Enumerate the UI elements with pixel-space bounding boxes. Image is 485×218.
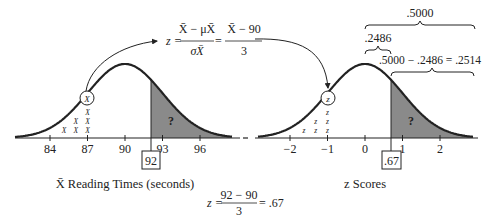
tick-label: 87 (82, 142, 94, 156)
left-marked-value: 92 (145, 154, 157, 168)
right-shaded-tail (391, 80, 473, 138)
diagram-canvas: XXXXXX 8487909396 92 ? X X̄ Reading Time… (0, 0, 485, 218)
hatch-symbol: X (84, 108, 90, 117)
right-hatch-region: zzzzzz (302, 108, 329, 135)
top-formula-frac2-num: X̄ − 90 (227, 22, 260, 36)
left-normal-curve (15, 64, 232, 137)
left-shaded-tail (151, 80, 232, 138)
top-formula-eq: = (215, 34, 222, 48)
top-formula-frac1-num: X̄ − μX̄ (179, 22, 216, 36)
right-shaded-label: ? (408, 114, 414, 128)
tick-label: −2 (284, 142, 297, 156)
brace-half (365, 21, 475, 29)
bottom-formula-den: 3 (236, 204, 242, 218)
tick-label: −1 (321, 142, 334, 156)
left-circle-symbol: X (83, 94, 90, 104)
tick-label: 0 (362, 142, 368, 156)
bottom-formula: z = 92 − 90 3 = .67 (206, 188, 284, 218)
hatch-symbol: X (84, 126, 90, 135)
tick-label: 84 (44, 142, 56, 156)
arrow-to-z-circle (255, 39, 328, 88)
hatch-symbol: z (325, 108, 329, 117)
hatch-symbol: z (302, 126, 306, 135)
hatch-symbol: z (325, 126, 329, 135)
top-formula: z = X̄ − μX̄ σX̄ = X̄ − 90 3 (165, 22, 262, 58)
left-shaded-label: ? (168, 114, 174, 128)
brace-center-to-z (365, 46, 391, 54)
normal-distribution-diagram: XXXXXX 8487909396 92 ? X X̄ Reading Time… (0, 0, 485, 218)
hatch-symbol: z (325, 117, 329, 126)
right-circle-symbol: z (325, 94, 330, 104)
brace-tail-label: .5000 − .2486 = .2514 (379, 54, 481, 66)
brace-tail (391, 68, 474, 76)
left-hatch-region: XXXXXX (61, 108, 90, 135)
top-formula-frac1-den: σX̄ (190, 44, 204, 58)
hatch-symbol: X (84, 117, 90, 126)
hatch-symbol: z (313, 117, 317, 126)
tick-label: 90 (119, 142, 131, 156)
right-x-axis-label: z Scores (344, 177, 386, 191)
top-formula-frac2-den: 3 (241, 44, 247, 58)
left-x-axis-label: X̄ Reading Times (seconds) (56, 177, 195, 191)
tick-label: 96 (194, 142, 206, 156)
tick-label: 2 (437, 142, 443, 156)
top-formula-lhs: z = (165, 34, 182, 48)
right-panel: zzzzzz −2−1012 .67 ? z z Scores .5000 .2… (255, 6, 481, 191)
left-panel: XXXXXX 8487909396 92 ? X X̄ Reading Time… (15, 64, 248, 191)
right-normal-curve (258, 64, 473, 137)
bottom-formula-num: 92 − 90 (221, 188, 258, 202)
hatch-symbol: z (313, 126, 317, 135)
brace-center-to-z-label: .2486 (365, 31, 392, 45)
bottom-formula-rhs: = .67 (259, 196, 284, 210)
brace-half-label: .5000 (407, 6, 434, 20)
hatch-symbol: X (72, 126, 78, 135)
hatch-symbol: X (72, 117, 78, 126)
right-marked-value: .67 (384, 154, 399, 168)
hatch-symbol: X (61, 126, 67, 135)
